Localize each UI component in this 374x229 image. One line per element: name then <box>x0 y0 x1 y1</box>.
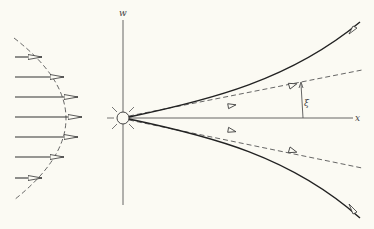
x-axis-label: x <box>355 113 360 123</box>
velocity-profile-dashed <box>14 38 66 200</box>
point-source-icon <box>117 112 129 124</box>
trajectory-arrows <box>228 26 357 214</box>
upper-trajectory <box>129 22 360 117</box>
lower-trajectory <box>129 119 360 218</box>
xi-angle-arc <box>301 84 303 118</box>
w-axis-label: w <box>119 8 127 18</box>
diagram-canvas: w x ξ <box>0 0 374 229</box>
inflow-arrows <box>15 57 82 178</box>
xi-label: ξ <box>304 98 310 108</box>
